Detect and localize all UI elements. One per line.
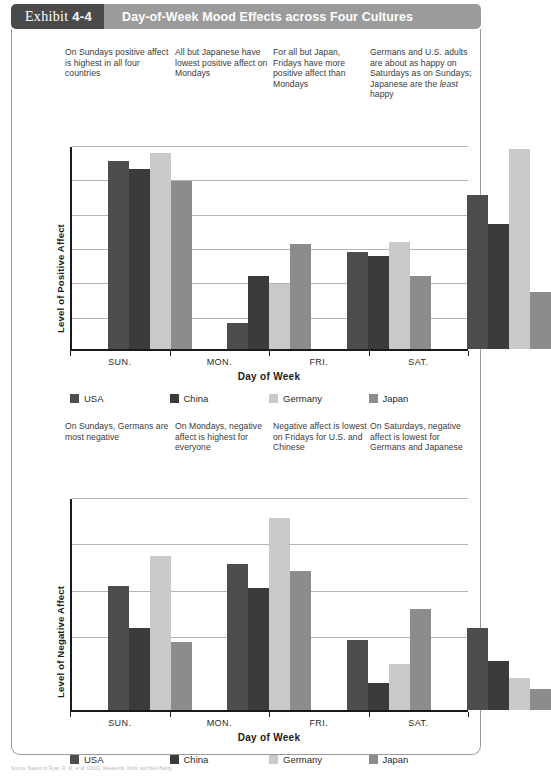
x-tick xyxy=(369,712,370,717)
bar-germany-sun xyxy=(150,153,171,349)
exhibit-number-label: 4-4 xyxy=(72,9,92,24)
x-label-fri: FRI. xyxy=(269,718,369,728)
x-tick xyxy=(170,351,171,356)
bar-germany-fri xyxy=(389,242,410,349)
chart1-plot-area xyxy=(70,147,468,351)
exhibit-badge: Exhibit4-4 xyxy=(11,4,104,29)
annotation-mid-1: On Sundays, Germans are most negative xyxy=(65,421,175,453)
bar-group-mon xyxy=(192,499,312,710)
x-label-mon: MON. xyxy=(170,718,270,728)
x-tick xyxy=(170,712,171,717)
chart1-bar-groups xyxy=(72,147,468,349)
exhibit-panel: On Sundays positive affect is highest in… xyxy=(11,29,481,755)
bar-usa-sun xyxy=(108,161,129,349)
legend-label: USA xyxy=(84,754,104,765)
bar-japan-sat xyxy=(530,689,551,710)
bar-china-sat xyxy=(488,661,509,710)
x-label-sun: SUN. xyxy=(70,357,170,367)
chart2-plot-area xyxy=(70,499,468,712)
bar-china-sun xyxy=(129,169,150,349)
bar-china-fri xyxy=(368,256,389,349)
legend-item-usa[interactable]: USA xyxy=(70,754,170,765)
bar-germany-fri xyxy=(389,664,410,710)
legend-item-china[interactable]: China xyxy=(170,393,270,404)
bar-group-mon xyxy=(192,147,312,349)
x-tick xyxy=(269,351,270,356)
annotation-mid-2: On Mondays, negative affect is highest f… xyxy=(175,421,273,453)
annotation-mid-4: On Saturdays, negative affect is lowest … xyxy=(370,421,475,453)
x-label-sun: SUN. xyxy=(70,718,170,728)
legend-swatch-germany-icon xyxy=(269,755,278,764)
legend-label: USA xyxy=(84,393,104,404)
legend-item-germany[interactable]: Germany xyxy=(269,754,369,765)
x-tick xyxy=(468,712,469,717)
legend-label: Japan xyxy=(383,754,409,765)
legend-item-japan[interactable]: Japan xyxy=(369,393,469,404)
annotations-top: On Sundays positive affect is highest in… xyxy=(12,47,482,100)
chart2-x-labels: SUN.MON.FRI.SAT. xyxy=(70,718,468,728)
legend-swatch-china-icon xyxy=(170,755,179,764)
bar-china-fri xyxy=(368,683,389,710)
bar-usa-fri xyxy=(347,252,368,349)
legend-item-germany[interactable]: Germany xyxy=(269,393,369,404)
bar-usa-sat xyxy=(467,628,488,710)
x-tick xyxy=(468,351,469,356)
bar-usa-sun xyxy=(108,586,129,710)
bar-china-mon xyxy=(248,588,269,710)
chart2-y-axis-title: Level of Negative Affect xyxy=(55,586,66,698)
legend-label: Germany xyxy=(283,393,322,404)
bar-china-sat xyxy=(488,224,509,349)
x-label-sat: SAT. xyxy=(369,718,469,728)
legend-swatch-japan-icon xyxy=(369,394,378,403)
exhibit-header: Exhibit4-4 Day-of-Week Mood Effects acro… xyxy=(11,4,481,29)
legend-swatch-china-icon xyxy=(170,394,179,403)
legend-label: Germany xyxy=(283,754,322,765)
x-label-sat: SAT. xyxy=(369,357,469,367)
chart1-y-axis-title: Level of Positive Affect xyxy=(55,224,66,333)
bar-germany-sat xyxy=(509,678,530,710)
x-tick xyxy=(369,351,370,356)
bar-group-sat xyxy=(431,147,551,349)
bar-germany-sat xyxy=(509,149,530,349)
source-line: Source: Based on Ryan, R. M., et al. (20… xyxy=(11,766,481,775)
legend-label: China xyxy=(184,393,209,404)
bar-japan-fri xyxy=(410,609,431,710)
bar-group-sat xyxy=(431,499,551,710)
annotation-top-2: All but Japanese have lowest positive af… xyxy=(175,47,273,100)
x-tick xyxy=(70,351,71,356)
legend-label: China xyxy=(184,754,209,765)
bar-japan-sat xyxy=(530,292,551,349)
x-tick xyxy=(269,712,270,717)
annotations-mid: On Sundays, Germans are most negative On… xyxy=(12,421,482,453)
bar-group-fri xyxy=(311,499,431,710)
chart1-x-ticks xyxy=(70,351,468,356)
annotation-top-4: Germans and U.S. adults are about as hap… xyxy=(370,47,475,100)
chart2-x-axis-title: Day of Week xyxy=(70,732,468,743)
chart2-x-ticks xyxy=(70,712,468,717)
bar-usa-mon xyxy=(227,323,248,349)
bar-japan-fri xyxy=(410,276,431,349)
chart2-bar-groups xyxy=(72,499,468,710)
x-label-fri: FRI. xyxy=(269,357,369,367)
bar-china-sun xyxy=(129,628,150,710)
bar-group-sun xyxy=(72,147,192,349)
bar-usa-fri xyxy=(347,640,368,710)
chart1-x-axis-title: Day of Week xyxy=(70,371,468,382)
legend-label: Japan xyxy=(383,393,409,404)
x-tick xyxy=(70,712,71,717)
legend-item-usa[interactable]: USA xyxy=(70,393,170,404)
chart2-legend: USAChinaGermanyJapan xyxy=(70,754,468,765)
legend-item-china[interactable]: China xyxy=(170,754,270,765)
bar-china-mon xyxy=(248,276,269,349)
legend-swatch-japan-icon xyxy=(369,755,378,764)
legend-item-japan[interactable]: Japan xyxy=(369,754,469,765)
chart1-legend: USAChinaGermanyJapan xyxy=(70,393,468,404)
bar-germany-mon xyxy=(269,518,290,710)
annotation-mid-3: Negative affect is lowest on Fridays for… xyxy=(273,421,370,453)
bar-group-sun xyxy=(72,499,192,710)
exhibit-prefix-label: Exhibit xyxy=(25,9,68,25)
chart1-x-labels: SUN.MON.FRI.SAT. xyxy=(70,357,468,367)
bar-usa-mon xyxy=(227,564,248,710)
bar-germany-mon xyxy=(269,284,290,349)
annotation-top-3: For all but Japan, Fridays have more pos… xyxy=(273,47,370,100)
